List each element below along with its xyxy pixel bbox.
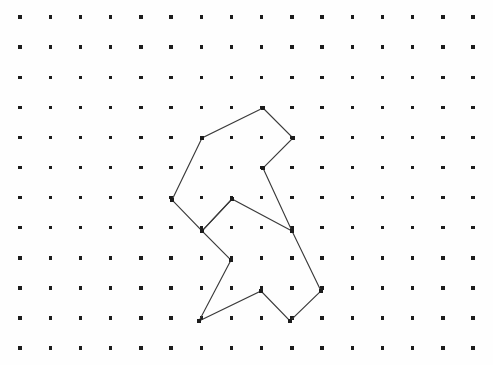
grid-dot (381, 166, 384, 169)
grid-dot (260, 76, 263, 79)
grid-dot (471, 286, 474, 289)
grid-dot (79, 45, 82, 48)
grid-dot (471, 256, 474, 259)
grid-dot (290, 256, 293, 259)
grid-dot (79, 226, 82, 229)
grid-dot (381, 15, 384, 18)
grid-dot (381, 226, 384, 229)
grid-dot (381, 136, 384, 139)
grid-dot (18, 316, 21, 319)
grid-dot (351, 136, 354, 139)
grid-dot (169, 45, 172, 48)
grid-dot (79, 106, 82, 109)
polygon-vertex-v13 (200, 136, 203, 139)
grid-dot (230, 136, 233, 139)
grid-dot (471, 166, 474, 169)
grid-dot (290, 106, 293, 109)
grid-dot (351, 256, 354, 259)
grid-dot (79, 316, 82, 319)
grid-dot (411, 316, 414, 319)
grid-dot (230, 15, 233, 18)
grid-dot (109, 346, 112, 349)
grid-dot (320, 316, 323, 319)
grid-dot (109, 136, 112, 139)
grid-dot (18, 286, 21, 289)
grid-dot (49, 45, 52, 48)
grid-dot (79, 15, 82, 18)
grid-dot (441, 226, 444, 229)
grid-dot (411, 346, 414, 349)
grid-dot (351, 106, 354, 109)
grid-dot (320, 76, 323, 79)
grid-dot (18, 226, 21, 229)
grid-dot (139, 316, 142, 319)
polygon-vertex-v1 (261, 106, 264, 109)
grid-dot (139, 45, 142, 48)
grid-dot (139, 106, 142, 109)
grid-dot (290, 45, 293, 48)
grid-dot (18, 76, 21, 79)
grid-dot (79, 76, 82, 79)
grid-dot (18, 256, 21, 259)
grid-dot (139, 15, 142, 18)
grid-dot (169, 256, 172, 259)
polygon-vertex-v3 (261, 166, 264, 169)
grid-dot (471, 136, 474, 139)
grid-dot (351, 196, 354, 199)
grid-dot (139, 346, 142, 349)
grid-dot (79, 346, 82, 349)
grid-dot (18, 15, 21, 18)
grid-dot (79, 196, 82, 199)
grid-dot (441, 166, 444, 169)
grid-dot (411, 256, 414, 259)
grid-dot (260, 316, 263, 319)
grid-dot (260, 226, 263, 229)
grid-dot (169, 316, 172, 319)
grid-dot (411, 226, 414, 229)
grid-dot (79, 166, 82, 169)
grid-dot (320, 346, 323, 349)
polygon-vertex-v9 (229, 258, 232, 261)
grid-dot (320, 286, 323, 289)
grid-dot (79, 136, 82, 139)
grid-dot (260, 346, 263, 349)
polygon-vertex-v8 (197, 319, 200, 322)
grid-dot (18, 346, 21, 349)
grid-dot (381, 45, 384, 48)
grid-dot (381, 346, 384, 349)
grid-dot (320, 45, 323, 48)
grid-dot (169, 226, 172, 229)
grid-dot (109, 15, 112, 18)
grid-dot (49, 316, 52, 319)
grid-dot (411, 286, 414, 289)
figure-canvas (0, 0, 493, 365)
grid-dot (411, 76, 414, 79)
polygon-vertex-v5 (319, 289, 322, 292)
grid-dot (290, 196, 293, 199)
grid-dot (320, 15, 323, 18)
polygon-vertex-v12 (170, 198, 173, 201)
grid-dot (169, 346, 172, 349)
grid-dot (471, 76, 474, 79)
grid-dot (79, 256, 82, 259)
grid-dot (139, 136, 142, 139)
grid-dot (320, 166, 323, 169)
grid-dot (230, 45, 233, 48)
grid-dot (169, 15, 172, 18)
grid-dot (381, 286, 384, 289)
polygon-vertex-v4 (290, 229, 293, 232)
grid-dot (411, 196, 414, 199)
grid-dot (109, 76, 112, 79)
grid-dot (411, 106, 414, 109)
grid-dot (290, 346, 293, 349)
grid-dot (49, 346, 52, 349)
grid-dot (49, 256, 52, 259)
grid-dot (49, 15, 52, 18)
grid-dot (109, 45, 112, 48)
grid-dot (230, 166, 233, 169)
grid-dot (411, 136, 414, 139)
grid-dot (411, 166, 414, 169)
grid-dot (320, 106, 323, 109)
grid-dot (381, 106, 384, 109)
grid-dot (351, 76, 354, 79)
